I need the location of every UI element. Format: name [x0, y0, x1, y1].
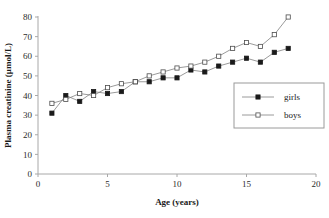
legend-box: [234, 83, 324, 128]
data-point-boys-age-6: [119, 82, 123, 86]
x-tick-label: 20: [312, 179, 322, 189]
data-point-boys-age-7: [133, 80, 137, 84]
y-tick-label: 0: [28, 169, 33, 179]
data-point-girls-age-10: [175, 76, 179, 80]
plasma-creatinine-line-chart: 01020304050607080 05101520 girlsboys Age…: [0, 0, 329, 218]
data-point-girls-age-14: [231, 60, 235, 64]
data-point-boys-age-11: [189, 64, 193, 68]
data-point-girls-age-17: [272, 50, 276, 54]
data-point-boys-age-3: [78, 91, 82, 95]
y-tick-label: 10: [23, 150, 33, 160]
data-point-girls-age-9: [161, 76, 165, 80]
data-point-boys-age-4: [92, 93, 96, 97]
data-point-boys-age-15: [244, 40, 248, 44]
x-tick-label: 5: [105, 179, 110, 189]
legend-marker-boys: [256, 113, 260, 117]
data-point-boys-age-18: [286, 15, 290, 19]
data-point-girls-age-12: [203, 70, 207, 74]
y-tick-label: 50: [23, 71, 33, 81]
data-point-boys-age-8: [147, 74, 151, 78]
data-point-boys-age-13: [217, 54, 221, 58]
data-point-girls-age-18: [286, 46, 290, 50]
data-point-girls-age-6: [119, 89, 123, 93]
legend-marker-girls: [256, 95, 260, 99]
chart-legend[interactable]: girlsboys: [234, 83, 324, 128]
y-tick-label: 20: [23, 130, 33, 140]
chart-container: 01020304050607080 05101520 girlsboys Age…: [0, 0, 329, 218]
data-point-girls-age-1: [50, 111, 54, 115]
y-tick-label: 40: [23, 91, 33, 101]
y-tick-label: 70: [23, 32, 33, 42]
legend-label-boys[interactable]: boys: [284, 110, 302, 120]
legend-label-girls[interactable]: girls: [284, 92, 300, 102]
data-point-boys-age-9: [161, 70, 165, 74]
y-tick-label: 30: [23, 110, 33, 120]
x-tick-label: 15: [242, 179, 252, 189]
x-axis-title: Age (years): [155, 197, 199, 207]
data-point-boys-age-14: [231, 46, 235, 50]
data-point-boys-age-2: [64, 97, 68, 101]
data-point-girls-age-13: [217, 64, 221, 68]
x-tick-label: 10: [173, 179, 183, 189]
data-point-girls-age-15: [244, 56, 248, 60]
y-axis-title: Plasma creatinine (µmol/L): [3, 43, 13, 148]
data-point-boys-age-12: [203, 60, 207, 64]
x-tick-label: 0: [36, 179, 41, 189]
data-point-girls-age-8: [147, 80, 151, 84]
data-point-girls-age-5: [105, 91, 109, 95]
data-point-boys-age-17: [272, 33, 276, 37]
data-point-boys-age-16: [258, 44, 262, 48]
data-point-girls-age-3: [78, 99, 82, 103]
y-tick-label: 60: [23, 51, 33, 61]
data-point-boys-age-5: [105, 86, 109, 90]
data-point-girls-age-16: [258, 60, 262, 64]
y-tick-label: 80: [23, 12, 33, 22]
data-point-boys-age-10: [175, 66, 179, 70]
data-point-boys-age-1: [50, 101, 54, 105]
